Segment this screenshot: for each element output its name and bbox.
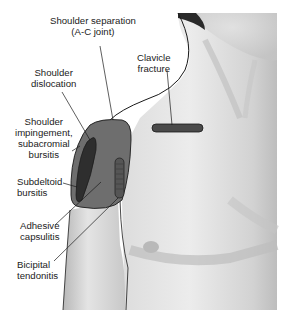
clavicle-fracture-lesion: [152, 124, 203, 132]
label-subdeltoid-bursitis: Subdeltoid bursitis: [17, 176, 62, 198]
label-shoulder-dislocation: Shoulder dislocation: [31, 67, 76, 89]
label-adhesive-capsulitis: Adhesive capsulitis: [20, 220, 59, 242]
label-clavicle-fracture: Clavicle fracture: [137, 52, 171, 74]
label-bicipital-tendonitis: Bicipital tendonitis: [17, 259, 58, 281]
label-shoulder-separation: Shoulder separation (A-C joint): [50, 15, 136, 37]
label-shoulder-impingement: Shoulder impingement, subacromial bursit…: [15, 116, 73, 160]
upper-arm: [63, 200, 128, 310]
nipple: [143, 241, 159, 253]
